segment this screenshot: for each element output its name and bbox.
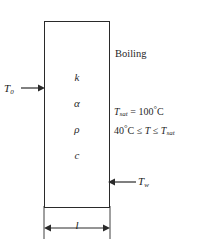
equation-block: Tsat = 100°C 40°C ≤ T ≤ Tsat [114, 102, 175, 140]
eq-range-variable: T [145, 125, 151, 136]
thickness-label: l [44, 219, 110, 231]
inlet-flux-arrow-icon [21, 81, 45, 95]
eq-range-lower-value: 40 [114, 125, 124, 136]
property-symbol-density: ρ [44, 124, 110, 135]
diagram-canvas: k α ρ c Boiling Tsat = 100°C 40°C ≤ T ≤ … [0, 0, 202, 244]
inlet-temperature-subscript: 0 [10, 88, 14, 96]
eq-sat-subscript: sat [120, 110, 128, 118]
eq-sat-relation: = [130, 106, 136, 117]
eq-sat-unit: C [157, 106, 164, 117]
equation-saturation-temperature: Tsat = 100°C [114, 102, 175, 121]
eq-range-lower-unit: C [128, 125, 135, 136]
inlet-temperature-label: T0 [4, 82, 14, 98]
eq-range-relation-left: ≤ [137, 125, 143, 136]
slab-rectangle [44, 21, 110, 208]
eq-range-upper-subscript: sat [166, 129, 174, 137]
boiling-label: Boiling [115, 48, 147, 60]
property-symbol-diffusivity: α [44, 98, 110, 109]
eq-range-relation-right: ≤ [153, 125, 159, 136]
wall-temperature-arrow-icon [108, 175, 136, 189]
property-symbol-conductivity: k [44, 72, 110, 83]
eq-sat-value: 100 [138, 106, 153, 117]
equation-temperature-range: 40°C ≤ T ≤ Tsat [114, 121, 175, 140]
property-symbol-specific-heat: c [44, 150, 110, 161]
wall-temperature-subscript: w [144, 181, 149, 189]
wall-temperature-label: Tw [138, 175, 149, 191]
